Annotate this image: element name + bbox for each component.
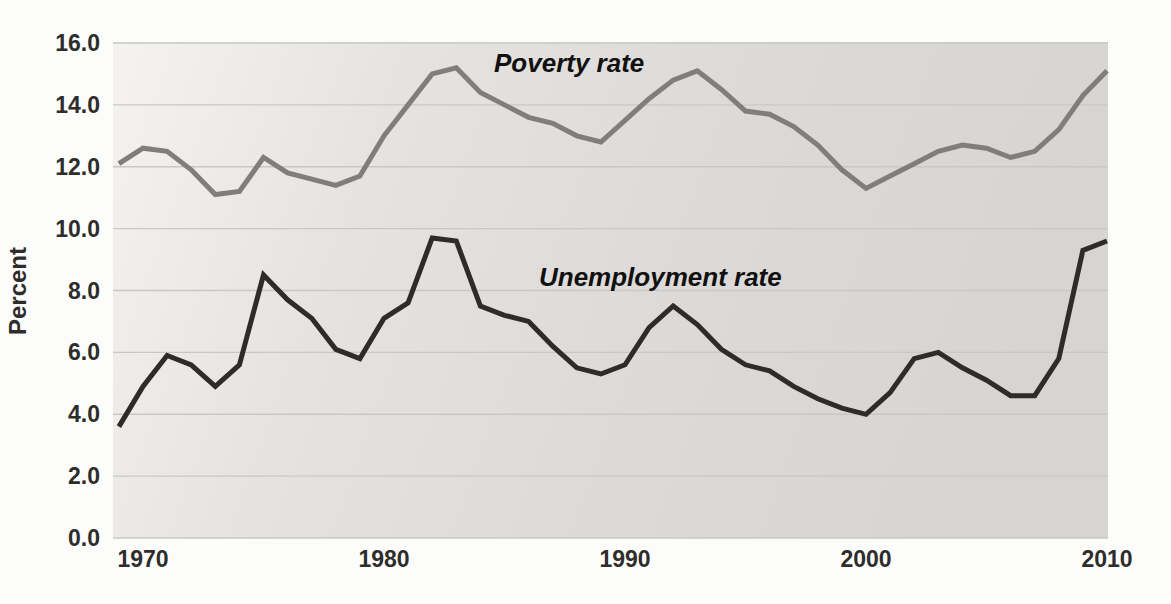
y-tick-label: 12.0 bbox=[0, 156, 100, 179]
x-tick-label: 2010 bbox=[1059, 548, 1155, 571]
y-tick-label: 16.0 bbox=[0, 32, 100, 55]
x-tick-label: 2000 bbox=[818, 548, 914, 571]
x-tick-label: 1990 bbox=[577, 548, 673, 571]
y-tick-label: 14.0 bbox=[0, 94, 100, 117]
y-tick-label: 2.0 bbox=[0, 465, 100, 488]
y-tick-label: 6.0 bbox=[0, 341, 100, 364]
y-tick-label: 10.0 bbox=[0, 218, 100, 241]
poverty-rate-label: Poverty rate bbox=[494, 50, 644, 76]
poverty-unemployment-figure: Percent 0.02.04.06.08.010.012.014.016.0 … bbox=[0, 0, 1171, 604]
y-tick-label: 4.0 bbox=[0, 403, 100, 426]
y-tick-label: 0.0 bbox=[0, 527, 100, 550]
line-chart-canvas bbox=[0, 0, 1171, 604]
unemployment-rate-label: Unemployment rate bbox=[539, 264, 782, 290]
x-tick-label: 1970 bbox=[95, 548, 191, 571]
x-tick-label: 1980 bbox=[336, 548, 432, 571]
y-tick-label: 8.0 bbox=[0, 280, 100, 303]
